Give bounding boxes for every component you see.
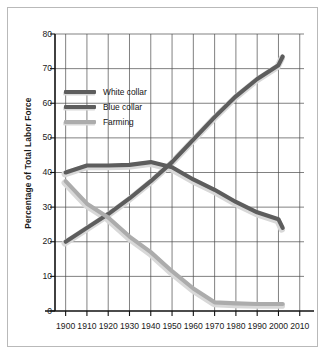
- legend-item-farming: Farming: [64, 114, 180, 129]
- legend-label: White collar: [103, 87, 147, 97]
- legend-item-white-collar: White collar: [64, 84, 180, 99]
- legend-swatch-icon: [64, 120, 96, 124]
- x-tick-label-group: 1900191019201930194019501960197019801990…: [8, 8, 319, 348]
- legend-swatch-icon: [64, 90, 96, 94]
- legend-swatch-icon: [64, 105, 96, 109]
- legend-item-blue-collar: Blue collar: [64, 99, 180, 114]
- legend-label: Farming: [103, 117, 134, 127]
- figure-frame: Percentage of Total Labor Force 80706050…: [7, 7, 318, 347]
- chart-stage: Percentage of Total Labor Force 80706050…: [8, 8, 319, 348]
- legend-label: Blue collar: [103, 102, 142, 112]
- chart-legend: White collarBlue collarFarming: [64, 84, 180, 129]
- x-tick-label: 2010: [283, 322, 317, 331]
